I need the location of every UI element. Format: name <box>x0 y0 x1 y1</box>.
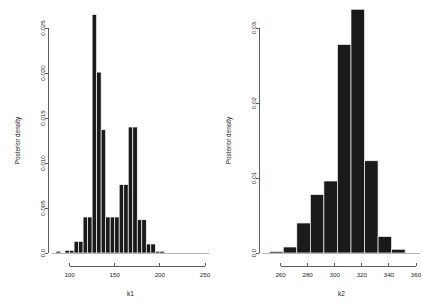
figure-root: 0.00.0050.0100.0150.0200.025Posterior de… <box>0 0 422 308</box>
histogram-bar <box>142 220 147 253</box>
y-tick-label: 0.025 <box>39 20 46 36</box>
y-axis-title: Posterior density <box>14 116 22 164</box>
histogram-svg-k2: 0.00.010.020.03Posterior density26028030… <box>211 0 422 308</box>
y-tick-label: 0.01 <box>250 171 257 184</box>
x-tick-label: 150 <box>110 271 121 278</box>
x-axis-title: k1 <box>127 290 134 297</box>
x-tick-label: 260 <box>275 271 286 278</box>
y-tick-label: 0.0 <box>250 248 257 257</box>
histogram-bar <box>101 130 106 253</box>
x-tick-label: 340 <box>384 271 395 278</box>
x-tick-label: 300 <box>330 271 341 278</box>
histogram-bar <box>310 195 324 254</box>
x-axis-group-1: 260280300320340360 <box>275 263 421 278</box>
y-tick-label: 0.015 <box>39 110 46 126</box>
histogram-bar <box>137 220 142 253</box>
histogram-bar <box>337 45 351 254</box>
histogram-bar <box>378 237 392 254</box>
x-tick-label: 360 <box>411 271 422 278</box>
x-axis-title: k2 <box>338 290 345 297</box>
bars-group-1 <box>270 9 405 253</box>
histogram-svg-k1: 0.00.0050.0100.0150.0200.025Posterior de… <box>0 0 211 308</box>
y-tick-label: 0.03 <box>250 21 257 34</box>
histogram-bar <box>324 181 338 253</box>
histogram-bar <box>133 127 138 253</box>
bars-group-0 <box>56 15 164 254</box>
x-tick-label: 280 <box>302 271 313 278</box>
histogram-bar <box>351 9 365 253</box>
x-tick-label: 250 <box>200 271 211 278</box>
y-tick-label: 0.010 <box>39 155 46 171</box>
y-axis-group-1: 0.00.010.020.03 <box>250 21 260 257</box>
histogram-bar <box>74 241 79 253</box>
histogram-bar <box>283 247 297 253</box>
histogram-panel-k2: 0.00.010.020.03Posterior density26028030… <box>211 0 422 308</box>
histogram-bar <box>297 223 311 253</box>
histogram-bar <box>128 127 133 253</box>
histogram-bar <box>124 185 129 253</box>
histogram-bar <box>392 249 406 253</box>
x-axis-group-0: 100150200250 <box>64 263 210 278</box>
histogram-bar <box>83 217 88 253</box>
histogram-bar <box>146 244 151 253</box>
histogram-bar <box>79 241 84 253</box>
x-tick-label: 100 <box>64 271 75 278</box>
y-axis-title: Posterior density <box>225 116 233 164</box>
histogram-bar <box>115 217 120 253</box>
x-tick-label: 200 <box>155 271 166 278</box>
histogram-bar <box>151 244 156 253</box>
histogram-bar <box>119 185 124 253</box>
histogram-bar <box>365 161 379 253</box>
histogram-bar <box>106 217 111 253</box>
histogram-bar <box>110 217 115 253</box>
y-tick-label: 0.0 <box>39 248 46 257</box>
y-tick-label: 0.020 <box>39 65 46 81</box>
y-tick-label: 0.02 <box>250 96 257 109</box>
histogram-bar <box>65 250 70 253</box>
histogram-bar <box>97 72 102 253</box>
histogram-bar <box>70 250 75 253</box>
histogram-bar <box>88 217 93 253</box>
x-tick-label: 320 <box>357 271 368 278</box>
y-tick-label: 0.005 <box>39 200 46 216</box>
histogram-panel-k1: 0.00.0050.0100.0150.0200.025Posterior de… <box>0 0 211 308</box>
histogram-bar <box>92 15 97 254</box>
y-axis-group-0: 0.00.0050.0100.0150.0200.025 <box>39 20 49 258</box>
